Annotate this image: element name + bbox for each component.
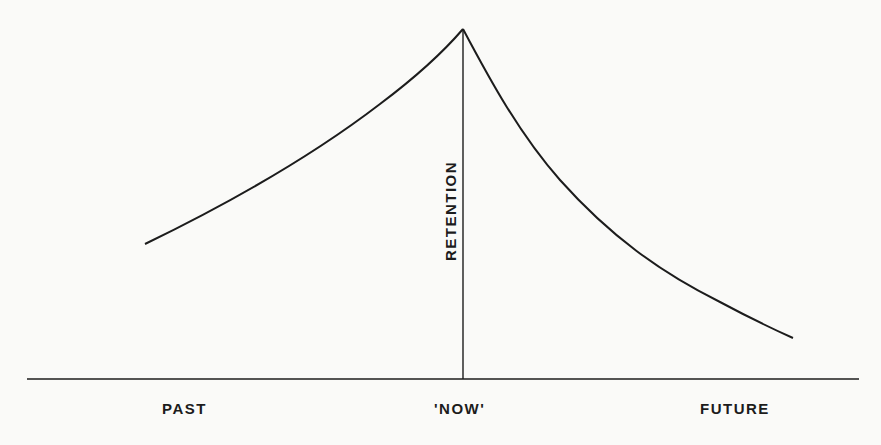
future-label: FUTURE [700, 400, 770, 417]
retention-diagram: RETENTION PAST 'NOW' FUTURE [0, 0, 881, 445]
diagram-canvas [0, 0, 881, 445]
future-forgetting-curve [463, 29, 793, 338]
retention-axis-label: RETENTION [442, 161, 459, 261]
past-label: PAST [162, 400, 207, 417]
past-retention-curve [145, 29, 463, 244]
now-label: 'NOW' [434, 400, 485, 417]
